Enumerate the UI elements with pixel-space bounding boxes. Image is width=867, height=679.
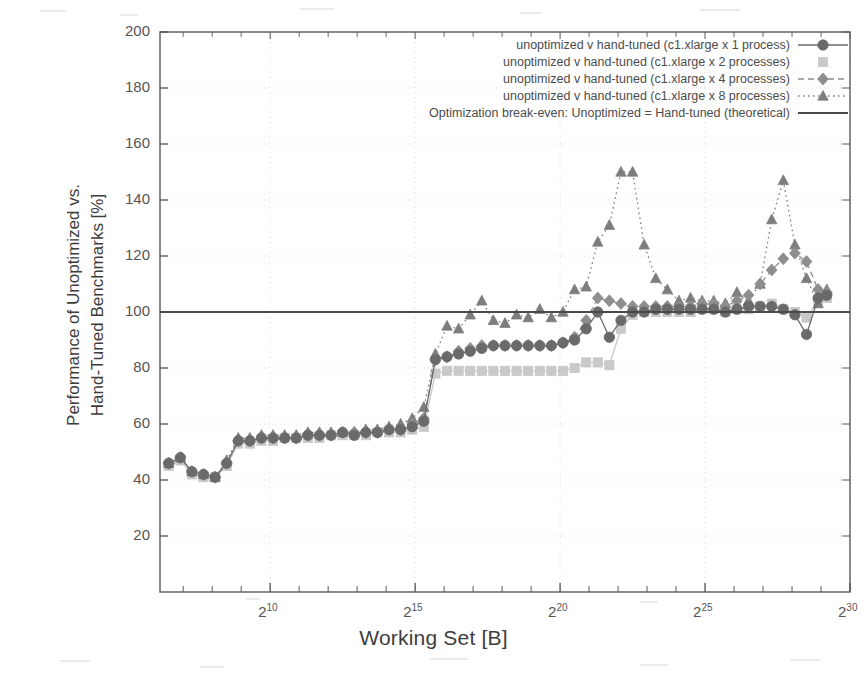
y-axis-label: Performance of Unoptimized vs. Hand-Tune…: [62, 70, 110, 540]
legend-item[interactable]: unoptimized v hand-tuned (c1.xlarge x 2 …: [330, 53, 850, 70]
legend-item[interactable]: unoptimized v hand-tuned (c1.xlarge x 8 …: [330, 87, 850, 104]
diamond-dashed-key: [796, 72, 850, 86]
y-tick-label: 20: [104, 526, 150, 543]
y-tick-label: 140: [104, 190, 150, 207]
x-tick-label: 215: [403, 602, 422, 620]
y-tick-label: 200: [104, 22, 150, 39]
square-key: [796, 55, 850, 69]
x-axis-label: Working Set [B]: [0, 626, 867, 650]
y-axis-label-line1: Performance of Unoptimized vs.: [62, 70, 86, 540]
solid-line-key: [796, 106, 850, 120]
circle-solid-key: [796, 38, 850, 52]
x-tick-label: 220: [548, 602, 567, 620]
chart-figure: Performance of Unoptimized vs. Hand-Tune…: [0, 0, 867, 679]
y-tick-label: 100: [104, 302, 150, 319]
series-group: [163, 166, 832, 483]
legend-item-label: Optimization break-even: Unoptimized = H…: [429, 106, 790, 120]
y-tick-label: 120: [104, 246, 150, 263]
y-tick-label: 80: [104, 358, 150, 375]
triangle-dotted-key: [796, 89, 850, 103]
y-tick-label: 160: [104, 134, 150, 151]
legend-item-label: unoptimized v hand-tuned (c1.xlarge x 2 …: [503, 55, 790, 69]
y-tick-label: 180: [104, 78, 150, 95]
legend-item[interactable]: unoptimized v hand-tuned (c1.xlarge x 4 …: [330, 70, 850, 87]
y-tick-label: 60: [104, 414, 150, 431]
x-tick-label: 210: [258, 602, 277, 620]
legend-item[interactable]: unoptimized v hand-tuned (c1.xlarge x 1 …: [330, 36, 850, 53]
chart-legend: unoptimized v hand-tuned (c1.xlarge x 1 …: [330, 36, 850, 121]
legend-item-label: unoptimized v hand-tuned (c1.xlarge x 1 …: [516, 38, 790, 52]
x-tick-label: 230: [838, 602, 857, 620]
y-tick-label: 40: [104, 470, 150, 487]
legend-item-label: unoptimized v hand-tuned (c1.xlarge x 8 …: [503, 89, 790, 103]
legend-item-label: unoptimized v hand-tuned (c1.xlarge x 4 …: [503, 72, 790, 86]
x-tick-label: 225: [693, 602, 712, 620]
y-axis-label-wrapper: Performance of Unoptimized vs. Hand-Tune…: [6, 0, 62, 600]
legend-item[interactable]: Optimization break-even: Unoptimized = H…: [330, 104, 850, 121]
